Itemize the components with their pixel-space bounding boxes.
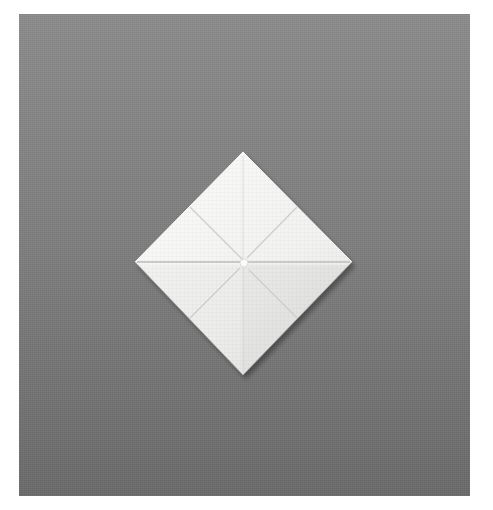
photo: Photograph of a white folded square napk… xyxy=(0,0,493,510)
napkin-center xyxy=(240,259,248,267)
folded-napkin xyxy=(0,0,493,510)
